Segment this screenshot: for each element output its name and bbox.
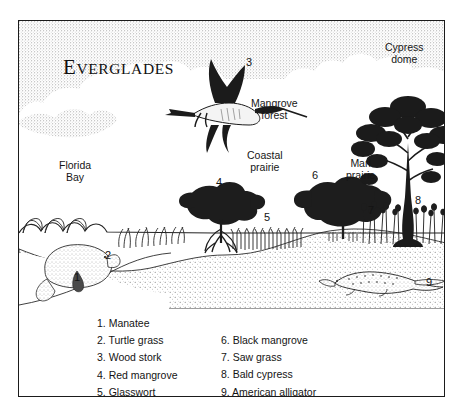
everglades-cross-section-illustration: EVERGLADES Florida Bay Mangrove forest C…	[19, 21, 444, 309]
legend: 1. Manatee 2. Turtle grass 3. Wood stork…	[19, 309, 444, 397]
label-marl-prairie: Marl prairie	[346, 157, 375, 182]
callout-7: 7	[368, 204, 374, 216]
callout-1: 1	[74, 271, 80, 283]
callout-9: 9	[426, 276, 432, 288]
legend-item-9: 9. American alligator	[221, 384, 316, 397]
label-mangrove-forest: Mangrove forest	[251, 97, 298, 122]
title-initial: E	[63, 55, 76, 79]
red-mangrove-illustration	[179, 182, 265, 253]
callout-3: 3	[246, 56, 252, 68]
callout-5: 5	[264, 211, 270, 223]
label-florida-bay: Florida Bay	[59, 159, 91, 184]
title-rest: VERGLADES	[76, 60, 174, 77]
legend-item-8: 8. Bald cypress	[221, 366, 316, 383]
everglades-figure: EVERGLADES Florida Bay Mangrove forest C…	[18, 20, 445, 397]
legend-item-5: 5. Glasswort	[97, 384, 178, 397]
legend-item-4: 4. Red mangrove	[97, 367, 178, 384]
legend-item-3: 3. Wood stork	[97, 349, 178, 366]
legend-item-7: 7. Saw grass	[221, 349, 316, 366]
wave-crests	[23, 218, 86, 233]
callout-6: 6	[312, 169, 318, 181]
legend-item-2: 2. Turtle grass	[97, 332, 178, 349]
legend-item-6: 6. Black mangrove	[221, 332, 316, 349]
turtle-grass-illustration	[119, 227, 185, 248]
legend-column-right: 6. Black mangrove 7. Saw grass 8. Bald c…	[221, 332, 316, 397]
legend-column-left: 1. Manatee 2. Turtle grass 3. Wood stork…	[97, 315, 178, 397]
label-coastal-prairie: Coastal prairie	[247, 149, 283, 174]
label-cypress-dome: Cypress dome	[385, 41, 424, 66]
callout-2: 2	[105, 249, 111, 261]
callout-8: 8	[415, 194, 421, 206]
legend-item-1: 1. Manatee	[97, 315, 178, 332]
page-title: EVERGLADES	[63, 55, 174, 80]
callout-4: 4	[216, 176, 222, 188]
